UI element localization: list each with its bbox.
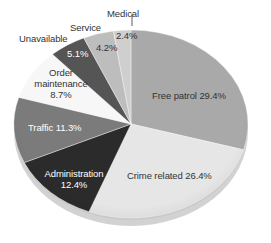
label-order-maintenance: Order maintenance 8.7% xyxy=(31,67,91,100)
label-unavailable: Unavailable xyxy=(19,33,68,44)
label-medical: Medical xyxy=(107,8,139,19)
label-unavailable-pct: 5.1% xyxy=(67,48,88,59)
label-administration-pct: 12.4% xyxy=(61,179,87,190)
label-crime-related: Crime related 26.4% xyxy=(127,170,212,181)
label-administration-name: Administration xyxy=(45,168,104,179)
label-service: Service xyxy=(70,22,101,33)
label-maintenance: maintenance xyxy=(34,78,87,89)
label-order: Order xyxy=(49,67,73,78)
label-administration: Administration 12.4% xyxy=(44,168,104,190)
label-order-pct: 8.7% xyxy=(50,89,71,100)
label-free-patrol: Free patrol 29.4% xyxy=(152,90,226,101)
label-medical-pct: 2.4% xyxy=(116,30,137,41)
label-traffic: Traffic 11.3% xyxy=(28,122,81,133)
label-service-pct: 4.2% xyxy=(96,42,117,53)
